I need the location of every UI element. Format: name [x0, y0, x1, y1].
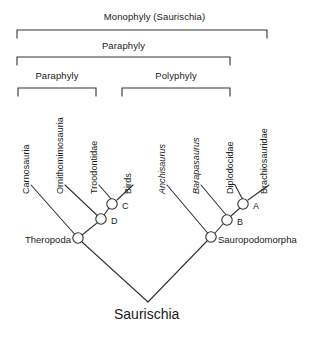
node-label-d: D — [111, 216, 118, 226]
tip-label-anchisaurus: Anchisaurus — [157, 144, 167, 194]
bracket-label-polyphyly: Polyphyly — [122, 70, 230, 81]
cladogram-figure: Monophyly (Saurischia) Paraphyly Paraphy… — [0, 0, 309, 338]
tip-label-troodontidae: Troodontidae — [89, 141, 99, 194]
tip-label-brachiosauridae: Brachiosauridae — [259, 128, 269, 194]
clade-label-sauropodomorpha: Sauropodomorpha — [218, 234, 297, 245]
branch-d-to-theropoda — [82, 223, 97, 235]
bracket-line-monophyly — [17, 30, 267, 38]
node-circle-b — [222, 215, 232, 225]
tip-label-ornithomimosauria: Ornithomimosauria — [55, 117, 65, 194]
node-label-b: B — [237, 217, 243, 227]
clade-label-theropoda: Theropoda — [25, 234, 71, 245]
tip-label-birds: Birds — [123, 173, 133, 194]
branch-troodontidae — [99, 185, 112, 200]
node-label-c: C — [122, 201, 129, 211]
branch-a-to-b — [231, 208, 240, 216]
node-circle-d — [96, 214, 106, 224]
branch-anchisaurus — [167, 185, 211, 237]
branch-diplodocidae — [235, 185, 243, 200]
tip-label-carnosauria: Carnosauria — [21, 144, 31, 194]
branch-barapasaurus — [201, 185, 227, 216]
root-label-saurischia: Saurischia — [114, 306, 179, 322]
branch-theropoda-to-root — [82, 242, 148, 302]
tip-label-diplodocidae: Diplodocidae — [225, 141, 235, 194]
bracket-label-paraphyly-outer: Paraphyly — [17, 40, 230, 51]
bracket-line-paraphyly-outer — [17, 57, 230, 65]
bracket-label-monophyly: Monophyly (Saurischia) — [0, 11, 309, 22]
branch-c-to-d — [104, 208, 109, 215]
node-circle-c — [107, 199, 117, 209]
bracket-label-paraphyly-inner: Paraphyly — [18, 70, 96, 81]
tip-label-barapasaurus: Barapasaurus — [191, 137, 201, 194]
node-circle-sauropodomorpha — [206, 232, 216, 242]
branch-b-to-sauropodomorpha — [215, 224, 223, 233]
node-label-a: A — [253, 201, 259, 211]
node-circle-theropoda — [73, 233, 83, 243]
branch-sauropodomorpha-to-root — [148, 241, 207, 302]
node-circle-a — [238, 199, 248, 209]
bracket-line-polyphyly — [122, 88, 230, 96]
bracket-line-paraphyly-inner — [18, 88, 96, 96]
